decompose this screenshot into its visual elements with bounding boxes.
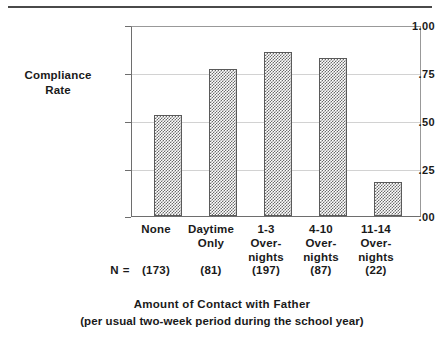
y-tick-label-050: .50: [322, 116, 444, 128]
x-axis-title: Amount of Contact with Father: [134, 298, 311, 310]
n-value-none: (173): [128, 264, 184, 276]
x-tick-label-11-14-overnights: 11-14 Over- nights: [348, 222, 404, 264]
n-value-4-10-overnights: (87): [293, 264, 349, 276]
n-label: N =: [78, 264, 130, 276]
x-tick-label-4-10-overnights: 4-10 Over- nights: [293, 222, 349, 264]
n-value-1-3-overnights: (197): [238, 264, 294, 276]
y-tick-mark-075: [125, 74, 131, 75]
n-value-daytime-only: (81): [183, 264, 239, 276]
x-axis-caption: Amount of Contact with Father (per usual…: [0, 296, 444, 330]
x-axis-subtitle: (per usual two-week period during the sc…: [0, 313, 444, 330]
bar-daytime-only[interactable]: [209, 69, 237, 216]
y-tick-label-025: .25: [322, 164, 444, 176]
bar-chart-figure: Compliance Rate 1.00 .75 .50 .25 .00 Non…: [0, 0, 444, 342]
y-tick-label-100: 1.00: [322, 20, 444, 32]
bar-1-3-overnights[interactable]: [264, 52, 292, 216]
y-tick-mark-025: [125, 170, 131, 171]
y-axis-title-line-1: Compliance: [6, 68, 110, 83]
bar-4-10-overnights[interactable]: [319, 58, 347, 216]
x-tick-label-none: None: [128, 222, 184, 236]
bar-none[interactable]: [154, 115, 182, 216]
x-tick-label-daytime-only: Daytime Only: [183, 222, 239, 250]
x-tick-label-1-3-overnights: 1-3 Over- nights: [238, 222, 294, 264]
y-tick-mark-100: [125, 26, 131, 27]
y-tick-mark-050: [125, 122, 131, 123]
y-axis-title-line-2: Rate: [6, 83, 110, 98]
y-tick-label-075: .75: [322, 68, 444, 80]
y-tick-mark-000: [125, 217, 131, 218]
n-value-11-14-overnights: (22): [348, 264, 404, 276]
y-axis-title: Compliance Rate: [6, 68, 110, 98]
